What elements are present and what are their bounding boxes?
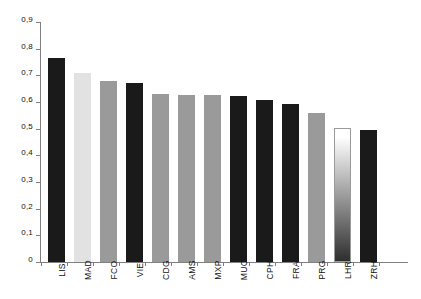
y-tick-mark bbox=[36, 102, 40, 103]
x-tick-mark bbox=[223, 262, 224, 266]
bar-slot bbox=[149, 22, 175, 262]
x-axis-label-mad: MAD bbox=[71, 268, 97, 298]
y-tick-mark bbox=[36, 155, 40, 156]
x-axis-label-text: FCO bbox=[110, 261, 119, 280]
x-tick-mark bbox=[301, 262, 302, 266]
y-tick-mark bbox=[36, 129, 40, 130]
x-axis-label-lis: LIS bbox=[45, 268, 71, 298]
y-tick-label: 0,3 bbox=[21, 176, 33, 184]
bar-prg[interactable] bbox=[308, 113, 325, 262]
x-tick-mark bbox=[275, 262, 276, 266]
x-tick-mark bbox=[379, 262, 380, 266]
bar-ams[interactable] bbox=[178, 95, 195, 262]
x-tick-mark bbox=[353, 262, 354, 266]
x-axis-label-text: FRA bbox=[292, 261, 301, 279]
x-tick-mark bbox=[41, 262, 42, 266]
y-tick-mark bbox=[36, 235, 40, 236]
y-tick-label: 0,6 bbox=[21, 96, 33, 104]
x-axis-label-cph: CPH bbox=[253, 268, 279, 298]
x-axis-label-text: ZRH bbox=[370, 261, 379, 279]
x-tick-mark bbox=[327, 262, 328, 266]
y-tick-label: 0,2 bbox=[21, 203, 33, 211]
x-tick-mark bbox=[119, 262, 120, 266]
bar-lhr[interactable] bbox=[334, 128, 351, 262]
bar-mad[interactable] bbox=[74, 73, 91, 262]
plot-area bbox=[41, 22, 408, 262]
y-tick-label: 0,8 bbox=[21, 43, 33, 51]
y-tick-mark bbox=[36, 262, 40, 263]
y-tick-mark bbox=[36, 22, 40, 23]
x-axis-label-text: VIE bbox=[136, 263, 145, 278]
y-tick-mark bbox=[36, 209, 40, 210]
x-axis-label-fra: FRA bbox=[279, 268, 305, 298]
x-tick-mark bbox=[249, 262, 250, 266]
x-axis-label-text: CDG bbox=[162, 260, 171, 280]
bar-vie[interactable] bbox=[126, 83, 143, 262]
x-axis-label-text: MAD bbox=[84, 260, 93, 280]
bar-slot bbox=[357, 22, 383, 262]
x-axis-label-zrh: ZRH bbox=[357, 268, 383, 298]
x-axis-label-text: LIS bbox=[58, 263, 67, 277]
bar-cdg[interactable] bbox=[152, 94, 169, 262]
bar-slot bbox=[201, 22, 227, 262]
x-axis-label-text: MUC bbox=[240, 260, 249, 280]
bar-muc[interactable] bbox=[230, 96, 247, 262]
bar-slot bbox=[123, 22, 149, 262]
x-axis-label-text: PRG bbox=[318, 260, 327, 279]
bar-fco[interactable] bbox=[100, 81, 117, 262]
bar-zrh[interactable] bbox=[360, 130, 377, 262]
x-axis-label-text: AMS bbox=[188, 260, 197, 279]
x-axis-label-text: CPH bbox=[266, 261, 275, 280]
bar-fra[interactable] bbox=[282, 104, 299, 262]
bar-slot bbox=[71, 22, 97, 262]
bar-slot bbox=[331, 22, 357, 262]
bar-chart: 0,90,80,70,60,50,40,30,20,10 LISMADFCOVI… bbox=[0, 0, 421, 299]
bar-slot bbox=[279, 22, 305, 262]
x-axis-label-muc: MUC bbox=[227, 268, 253, 298]
x-tick-mark bbox=[145, 262, 146, 266]
y-tick-label: 0,7 bbox=[21, 69, 33, 77]
x-tick-mark bbox=[197, 262, 198, 266]
y-tick-label: 0,5 bbox=[21, 123, 33, 131]
x-axis-label-text: MXP bbox=[214, 260, 223, 279]
x-axis-label-cdg: CDG bbox=[149, 268, 175, 298]
x-tick-mark bbox=[67, 262, 68, 266]
x-tick-mark bbox=[171, 262, 172, 266]
bar-slot bbox=[253, 22, 279, 262]
x-axis-label-mxp: MXP bbox=[201, 268, 227, 298]
bar-slot bbox=[305, 22, 331, 262]
bar-slot bbox=[175, 22, 201, 262]
y-tick-mark bbox=[36, 182, 40, 183]
x-axis-label-text: LHR bbox=[344, 261, 353, 279]
y-tick-mark bbox=[36, 49, 40, 50]
y-tick-label: 0,9 bbox=[21, 16, 33, 24]
x-axis-label-fco: FCO bbox=[97, 268, 123, 298]
x-axis-label-prg: PRG bbox=[305, 268, 331, 298]
bar-slot bbox=[97, 22, 123, 262]
bar-slot bbox=[227, 22, 253, 262]
x-axis-label-lhr: LHR bbox=[331, 268, 357, 298]
y-tick-label: 0,4 bbox=[21, 149, 33, 157]
bar-mxp[interactable] bbox=[204, 95, 221, 262]
y-tick-label: 0 bbox=[28, 256, 33, 264]
bar-lis[interactable] bbox=[48, 58, 65, 262]
x-tick-mark bbox=[93, 262, 94, 266]
y-tick-mark bbox=[36, 75, 40, 76]
x-axis-label-vie: VIE bbox=[123, 268, 149, 298]
bar-cph[interactable] bbox=[256, 100, 273, 262]
y-tick-label: 0,1 bbox=[21, 229, 33, 237]
x-axis-label-ams: AMS bbox=[175, 268, 201, 298]
bar-slot bbox=[45, 22, 71, 262]
